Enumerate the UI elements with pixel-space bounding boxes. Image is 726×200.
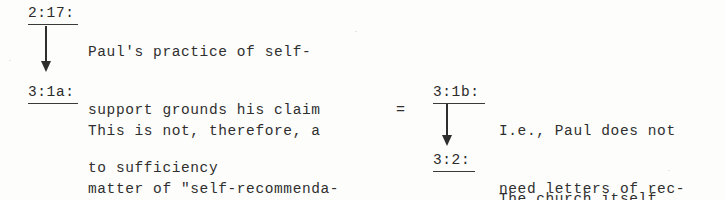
text-line: This is not, therefore, a xyxy=(88,122,339,141)
scan-speckle xyxy=(210,186,212,187)
text-line: The church itself xyxy=(499,190,657,200)
text-line: I.e., Paul does not xyxy=(499,122,685,141)
down-arrow-icon-right xyxy=(441,104,453,146)
text-line: Paul's practice of self- xyxy=(88,43,321,62)
discourse-structure-diagram: 2:17: Paul's practice of self- support g… xyxy=(0,0,726,200)
reference-label-3-2[interactable]: 3:2: xyxy=(433,151,475,172)
text-block-3-1a: This is not, therefore, a matter of "sel… xyxy=(88,83,339,200)
arrow-shaft xyxy=(446,104,448,136)
reference-label-2-17[interactable]: 2:17: xyxy=(28,4,78,25)
arrow-head xyxy=(442,135,452,146)
arrow-head xyxy=(41,61,51,72)
text-block-3-2: The church itself is Paul's letter xyxy=(499,151,657,200)
reference-label-3-1b[interactable]: 3:1b: xyxy=(433,83,485,104)
equivalence-sign: = xyxy=(396,102,406,119)
arrow-shaft xyxy=(45,26,47,62)
reference-label-3-1a[interactable]: 3:1a: xyxy=(28,83,78,104)
scan-speckle xyxy=(668,170,670,171)
scan-speckle xyxy=(9,60,11,61)
scan-speckle xyxy=(355,31,357,32)
down-arrow-icon-left xyxy=(40,26,52,72)
text-line: matter of "self-recommenda- xyxy=(88,180,339,199)
